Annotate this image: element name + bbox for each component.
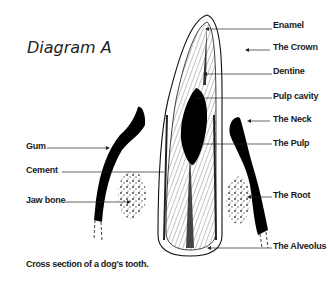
- label-cement: Cement: [26, 165, 58, 175]
- label-pulp-cavity: Pulp cavity: [273, 91, 318, 101]
- label-gum: Gum: [26, 141, 46, 151]
- label-enamel: Enamel: [273, 20, 304, 30]
- label-jaw-bone: Jaw bone: [26, 195, 65, 205]
- caption: Cross section of a dog's tooth.: [26, 259, 148, 269]
- label-crown: The Crown: [273, 42, 318, 52]
- spongy-bone-left: [118, 171, 146, 219]
- diagram-title: Diagram A: [27, 38, 112, 57]
- label-pulp: The Pulp: [273, 138, 309, 148]
- label-dentine: Dentine: [273, 66, 305, 76]
- spongy-bone-right: [226, 176, 250, 224]
- label-alveolus: The Alveolus: [273, 241, 326, 251]
- label-neck: The Neck: [273, 114, 311, 124]
- label-root: The Root: [273, 190, 310, 200]
